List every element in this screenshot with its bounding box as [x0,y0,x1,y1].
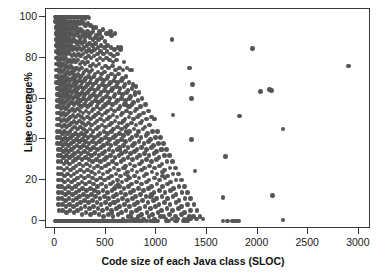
data-point [140,198,145,203]
data-point [139,168,144,173]
data-point [162,200,167,205]
data-point [176,172,181,177]
data-point [281,218,286,223]
y-tick-mark [39,179,45,180]
data-point [179,178,184,183]
y-tick-mark [39,16,45,17]
data-point [134,208,139,213]
data-point [111,194,116,199]
data-point [158,135,163,140]
x-tick-label: 2500 [284,237,330,248]
data-point [150,193,155,198]
x-tick-mark [105,228,106,234]
x-tick-mark [206,228,207,234]
data-point [135,155,140,160]
data-point [138,192,143,197]
data-point [160,194,165,199]
data-point [183,196,188,201]
data-point [281,127,286,132]
data-point [130,143,135,148]
data-point [110,210,115,215]
data-point [161,141,166,146]
data-point [144,157,149,162]
data-point [177,184,182,189]
data-point [155,219,160,224]
data-point [126,184,131,189]
data-point [192,202,197,207]
data-point [185,202,190,207]
data-point [346,64,351,69]
data-point [118,147,123,152]
data-point [189,137,194,142]
data-point [157,164,162,169]
data-point [146,109,151,114]
data-point [173,166,178,171]
data-point [150,170,155,175]
x-tick-label: 500 [82,237,128,248]
data-point [170,159,175,164]
data-point [106,176,111,181]
data-point [122,202,127,207]
data-point [165,206,170,211]
data-point [171,172,176,177]
data-point [146,139,151,144]
data-point [185,190,190,195]
data-point [187,66,192,71]
data-point [138,121,143,126]
data-point [188,208,193,213]
x-tick-label: 1000 [132,237,178,248]
data-point [128,190,133,195]
data-point [134,180,139,185]
data-point [170,37,175,42]
data-point [114,206,119,211]
data-point [130,68,135,73]
data-point [111,200,116,205]
data-point [182,184,187,189]
data-point [142,174,147,179]
data-point [201,217,206,222]
plot-area [45,8,370,228]
data-point [118,47,123,52]
data-point [153,135,158,140]
data-point [121,119,126,124]
y-axis-title: Line coverage% [23,32,34,192]
scatter-points-layer [46,9,369,227]
y-tick-mark [39,138,45,139]
x-tick-mark [358,228,359,234]
data-point [147,123,152,128]
data-point [142,151,147,156]
data-point [119,159,124,164]
data-point [159,147,164,152]
data-point [134,84,139,89]
data-point [116,212,121,217]
data-point [137,219,142,224]
data-point [176,206,181,211]
x-tick-mark [54,228,55,234]
y-tick-label: 100 [0,11,37,22]
data-point [130,196,135,201]
data-point [190,82,195,87]
data-point [143,204,148,209]
data-point [136,186,141,191]
x-axis-title: Code size of each Java class (SLOC) [0,256,386,267]
data-point [164,147,169,152]
y-tick-mark [39,220,45,221]
data-point [269,88,274,93]
data-point [114,58,119,63]
data-point [122,60,127,65]
data-point [270,193,275,198]
data-point [258,89,263,94]
data-point [174,178,179,183]
data-point [146,186,151,191]
data-point [153,204,158,209]
data-point [175,219,180,224]
data-point [103,164,108,169]
data-point [152,151,157,156]
data-point [171,113,176,118]
data-point [193,169,198,174]
data-point [119,113,124,118]
data-point [124,74,129,79]
scatter-chart-figure: 020406080100 050010001500200025003000 Li… [0,0,386,275]
data-point [152,176,157,181]
data-point [113,31,118,36]
